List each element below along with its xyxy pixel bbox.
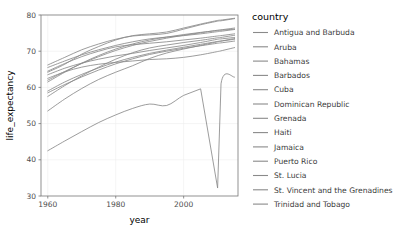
x-axis-title: year bbox=[129, 215, 149, 225]
y-axis-title: life_expectancy bbox=[5, 70, 15, 141]
x-tick-label: 1960 bbox=[38, 200, 57, 209]
legend: country Antigua and BarbudaArubaBahamasB… bbox=[252, 11, 393, 209]
y-tick-label: 60 bbox=[26, 83, 36, 92]
panel bbox=[41, 15, 238, 196]
legend-item-label: Cuba bbox=[274, 85, 294, 94]
x-tick-label: 2000 bbox=[174, 200, 193, 209]
legend-item-label: Haiti bbox=[274, 128, 292, 137]
y-tick-label: 50 bbox=[26, 119, 36, 128]
y-tick-label: 80 bbox=[26, 11, 36, 20]
legend-item-label: St. Vincent and the Grenadines bbox=[274, 186, 393, 195]
legend-items: Antigua and BarbudaArubaBahamasBarbadosC… bbox=[253, 28, 393, 209]
y-tick-label: 40 bbox=[26, 155, 36, 164]
chart-root: 304050607080 196019802000 life_expectanc… bbox=[0, 0, 395, 236]
y-tick-label: 30 bbox=[26, 192, 36, 201]
y-tick-label: 70 bbox=[26, 47, 36, 56]
legend-item-label: Dominican Republic bbox=[274, 100, 349, 109]
legend-item-label: Trinidad and Tobago bbox=[273, 200, 350, 209]
legend-item-label: Jamaica bbox=[273, 143, 304, 152]
legend-item-label: St. Lucia bbox=[274, 171, 306, 180]
legend-item-label: Aruba bbox=[274, 43, 297, 52]
x-axis: 196019802000 bbox=[38, 196, 193, 209]
y-axis: 304050607080 bbox=[26, 11, 41, 201]
legend-item-label: Barbados bbox=[274, 71, 310, 80]
life-expectancy-line-chart: 304050607080 196019802000 life_expectanc… bbox=[0, 0, 395, 236]
legend-item-label: Grenada bbox=[274, 114, 306, 123]
legend-item-label: Bahamas bbox=[274, 57, 309, 66]
legend-item-label: Antigua and Barbuda bbox=[274, 28, 355, 37]
legend-item-label: Puerto Rico bbox=[274, 157, 318, 166]
x-tick-label: 1980 bbox=[106, 200, 125, 209]
legend-title: country bbox=[252, 11, 289, 22]
